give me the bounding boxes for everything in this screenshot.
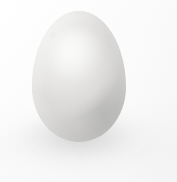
image-canvas	[0, 0, 177, 182]
egg-highlight	[51, 29, 100, 81]
